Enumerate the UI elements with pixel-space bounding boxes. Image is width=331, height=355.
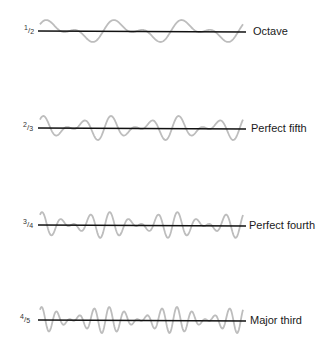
baseline-axis-octave: [38, 31, 246, 32]
ratio-numerator: 3: [23, 218, 27, 225]
ratio-numerator: 2: [23, 121, 27, 128]
ratio-label-perfect-fourth: 3/4: [23, 218, 33, 229]
ratio-label-major-third: 4/5: [20, 313, 30, 324]
ratio-denominator: 3: [29, 125, 33, 132]
interval-label-octave: Octave: [253, 25, 288, 37]
ratio-denominator: 2: [30, 28, 34, 35]
ratio-label-octave: 1/2: [24, 24, 34, 35]
interval-label-perfect-fourth: Perfect fourth: [249, 219, 315, 231]
ratio-label-perfect-fifth: 2/3: [23, 121, 33, 132]
waveform-canvas: [0, 0, 331, 355]
interval-waveform-diagram: 1/2 Octave 2/3 Perfect fifth 3/4 Perfect…: [0, 0, 331, 355]
ratio-denominator: 5: [26, 317, 30, 324]
interval-label-perfect-fifth: Perfect fifth: [251, 122, 307, 134]
ratio-numerator: 4: [20, 313, 24, 320]
ratio-numerator: 1: [24, 24, 28, 31]
baseline-axis-perfect-fifth: [38, 128, 246, 129]
interval-label-major-third: Major third: [250, 314, 302, 326]
baseline-axis-major-third: [38, 320, 246, 321]
baseline-axis-perfect-fourth: [38, 225, 246, 226]
ratio-denominator: 4: [29, 222, 33, 229]
